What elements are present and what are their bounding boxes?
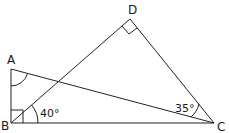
right-angle-mark-d <box>122 26 137 34</box>
segment-bd <box>11 19 130 123</box>
angle-arc-a <box>11 74 28 87</box>
angle-label-b: 40° <box>40 107 60 120</box>
segment-dc <box>130 19 214 123</box>
angle-label-c: 35° <box>175 102 195 115</box>
point-label-a: A <box>7 53 16 67</box>
point-label-b: B <box>1 119 9 133</box>
point-label-c: C <box>217 120 225 133</box>
point-label-d: D <box>128 3 137 17</box>
geometry-diagram: D A B C 40° 35° <box>0 0 229 133</box>
angle-arc-b <box>32 105 39 123</box>
